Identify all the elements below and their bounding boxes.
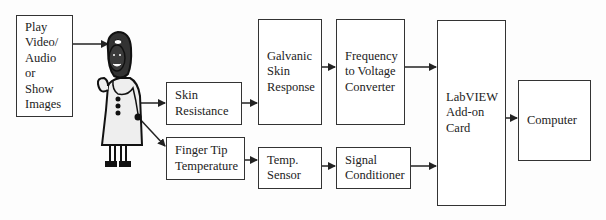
block-skin-resistance: Skin Resistance: [166, 82, 242, 125]
block-temp-sensor: Temp. Sensor: [258, 147, 322, 189]
block-galvanic-skin-response: Galvanic Skin Response: [258, 19, 322, 125]
block-frequency-to-voltage: Frequency to Voltage Converter: [336, 19, 405, 125]
block-temp-sensor-label: Temp. Sensor: [259, 153, 301, 184]
block-stimulus: Play Video/ Audio or Show Images: [16, 15, 73, 117]
block-labview-card: LabVIEW Add-on Card: [437, 20, 506, 206]
block-signal-conditioner-label: Signal Conditioner: [337, 153, 405, 184]
block-finger-tip-label: Finger Tip Temperature: [167, 143, 238, 174]
block-f2v-label: Frequency to Voltage Converter: [337, 49, 398, 96]
block-finger-tip-temperature: Finger Tip Temperature: [166, 137, 245, 180]
block-skin-resistance-label: Skin Resistance: [167, 88, 228, 119]
block-gsr-label: Galvanic Skin Response: [259, 49, 315, 96]
block-diagram: Play Video/ Audio or Show Images Skin Re…: [0, 0, 606, 220]
doctor-figure-icon: [98, 32, 142, 166]
block-computer-label: Computer: [519, 113, 577, 129]
block-computer: Computer: [518, 80, 591, 161]
block-stimulus-label: Play Video/ Audio or Show Images: [17, 20, 61, 113]
block-signal-conditioner: Signal Conditioner: [336, 147, 411, 189]
block-labview-label: LabVIEW Add-on Card: [438, 90, 498, 137]
